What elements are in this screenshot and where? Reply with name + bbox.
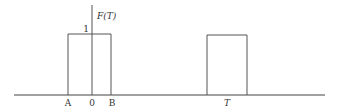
pulse-diagram: F(T) 1 A 0 B T bbox=[0, 0, 337, 112]
x-label-t: T bbox=[224, 98, 231, 108]
pulse-at-T bbox=[207, 35, 247, 95]
x-label-b: B bbox=[109, 98, 116, 108]
pulse-centered bbox=[68, 34, 111, 95]
x-label-zero: 0 bbox=[89, 98, 95, 108]
x-label-a: A bbox=[64, 98, 72, 108]
level-label: 1 bbox=[83, 24, 89, 34]
y-axis-label: F(T) bbox=[96, 11, 117, 21]
